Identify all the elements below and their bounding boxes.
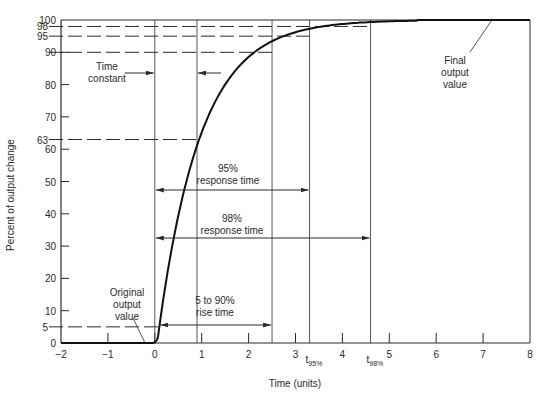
- x-tick-label: 3: [293, 349, 299, 360]
- time-constant-label: Time: [96, 61, 118, 72]
- x-tick-label: 4: [340, 349, 346, 360]
- original-output-label: Original: [110, 287, 144, 298]
- original-output-label: value: [115, 311, 139, 322]
- response-98-label: 98%: [222, 213, 242, 224]
- step-response-chart: 9895635 0102030405060708090100−2−1012345…: [0, 0, 546, 400]
- y-axis-label: Percent of output change: [5, 139, 16, 251]
- y-tick-label: 60: [45, 144, 57, 155]
- y-tick-label: 50: [45, 177, 57, 188]
- x-tick-label: 2: [246, 349, 252, 360]
- rise-time-label: rise time: [196, 307, 234, 318]
- response-95-label: 95%: [218, 163, 238, 174]
- x-tick-label: 8: [527, 349, 533, 360]
- annotations: Timeconstant95%response time98%response …: [88, 20, 492, 343]
- time-constant-label: constant: [88, 73, 126, 84]
- y-tick-label: 100: [39, 15, 56, 26]
- y-tick-label: 90: [45, 47, 57, 58]
- original-output-label: output: [113, 299, 141, 310]
- y-tick-label: 70: [45, 112, 57, 123]
- x-tick-label: 6: [433, 349, 439, 360]
- reference-label-95: 95: [37, 31, 49, 42]
- rise-time-label: 5 to 90%: [195, 295, 235, 306]
- original-output-leader: [133, 318, 145, 343]
- x-tick-label: 0: [152, 349, 158, 360]
- x-axis-label: Time (units): [269, 378, 321, 389]
- y-tick-label: 20: [45, 273, 57, 284]
- time-marker-subscript: 95%: [308, 360, 322, 367]
- x-tick-label: −2: [55, 349, 67, 360]
- y-tick-label: 30: [45, 241, 57, 252]
- final-output-label: value: [443, 79, 467, 90]
- y-tick-label: 10: [45, 306, 57, 317]
- time-marker-label: t98%: [367, 354, 384, 367]
- x-tick-label: 5: [387, 349, 393, 360]
- x-tick-label: 7: [480, 349, 486, 360]
- time-marker-label: t95%: [306, 354, 323, 367]
- response-95-label: response time: [197, 175, 260, 186]
- y-tick-label: 0: [50, 338, 56, 349]
- y-tick-label: 40: [45, 209, 57, 220]
- x-tick-label: −1: [102, 349, 114, 360]
- response-98-label: response time: [201, 225, 264, 236]
- time-marker-subscript: 98%: [369, 360, 383, 367]
- y-tick-label: 80: [45, 80, 57, 91]
- final-output-label: Final: [444, 55, 466, 66]
- reference-label-5: 5: [42, 322, 48, 333]
- x-tick-label: 1: [199, 349, 205, 360]
- final-output-label: output: [441, 67, 469, 78]
- final-output-leader: [470, 20, 492, 52]
